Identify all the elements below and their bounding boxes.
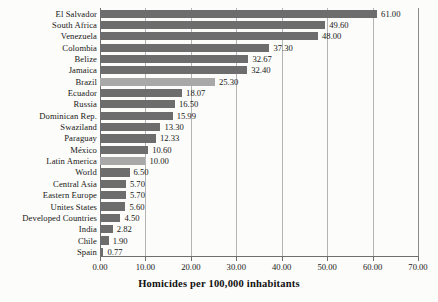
category-label: Russia <box>73 100 97 109</box>
bar-row: Venezuela48.00 <box>0 31 438 42</box>
bar-track: 5.60 <box>100 201 418 212</box>
bar-value-label: 1.90 <box>113 236 128 245</box>
category-label: Eastern Europe <box>43 191 97 200</box>
bar-row: Swaziland13.30 <box>0 121 438 132</box>
bar <box>100 10 377 18</box>
bar-value-label: 15.99 <box>177 111 196 120</box>
category-label: Venezuela <box>61 32 97 41</box>
bar <box>100 32 318 40</box>
x-tick-label-50: 50.00 <box>317 262 336 272</box>
x-tick-10 <box>145 257 146 261</box>
bar <box>100 214 120 222</box>
bar-row: Colombia37.30 <box>0 42 438 53</box>
bar-track: 13.30 <box>100 121 418 132</box>
bar-row: Paraguay12.33 <box>0 133 438 144</box>
category-label: South Africa <box>52 21 97 30</box>
x-tick-20 <box>191 257 192 261</box>
category-label: Latin America <box>46 157 97 166</box>
bar-value-label: 5.70 <box>130 191 145 200</box>
category-label: Central Asia <box>53 179 97 188</box>
x-tick-30 <box>236 257 237 261</box>
x-axis-line <box>100 256 419 257</box>
x-tick-40 <box>282 257 283 261</box>
bar-row: Russia16.50 <box>0 99 438 110</box>
bar-track: 6.50 <box>100 167 418 178</box>
bar <box>100 55 248 63</box>
bar-value-label: 5.60 <box>129 202 144 211</box>
x-tick-label-0: 0.00 <box>92 262 107 272</box>
bar-rows: El Salvador61.00South Africa49.60Venezue… <box>0 8 438 258</box>
bar-row: India2.82 <box>0 224 438 235</box>
bar-track: 37.30 <box>100 42 418 53</box>
category-label: El Salvador <box>56 9 97 18</box>
bar <box>100 44 269 52</box>
bar-value-label: 61.00 <box>381 9 400 18</box>
category-label: Unites States <box>51 202 97 211</box>
bar-value-label: 48.00 <box>322 32 341 41</box>
category-label: India <box>79 225 97 234</box>
category-label: Developed Countries <box>22 213 97 222</box>
bar-track: 61.00 <box>100 8 418 19</box>
bar-row: Jamaica32.40 <box>0 65 438 76</box>
bar-row: Unites States5.60 <box>0 201 438 212</box>
bar-row: Belize32.67 <box>0 53 438 64</box>
bar-track: 49.60 <box>100 19 418 30</box>
bar-value-label: 37.30 <box>273 43 292 52</box>
bar-row: Latin America10.00 <box>0 155 438 166</box>
bar-row: Brazil25.30 <box>0 76 438 87</box>
bar-track: 4.50 <box>100 212 418 223</box>
category-label: Chile <box>78 236 97 245</box>
bar-row: World6.50 <box>0 167 438 178</box>
bar <box>100 89 182 97</box>
category-label: World <box>75 168 97 177</box>
x-tick-label-70: 70.00 <box>408 262 427 272</box>
bar-value-label: 18.07 <box>186 89 205 98</box>
homicide-rate-bar-chart: El Salvador61.00South Africa49.60Venezue… <box>0 0 438 302</box>
bar-track: 18.07 <box>100 87 418 98</box>
x-tick-label-20: 20.00 <box>181 262 200 272</box>
category-label: Belize <box>74 55 97 64</box>
bar-value-label: 13.30 <box>164 123 183 132</box>
x-tick-label-40: 40.00 <box>272 262 291 272</box>
bar <box>100 248 103 256</box>
category-label: Colombia <box>62 43 97 52</box>
bar-row: México10.60 <box>0 144 438 155</box>
bar-value-label: 10.00 <box>149 157 168 166</box>
x-tick-label-30: 30.00 <box>227 262 246 272</box>
category-label: Jamaica <box>69 66 97 75</box>
bar <box>100 202 125 210</box>
bar <box>100 168 130 176</box>
bar-track: 15.99 <box>100 110 418 121</box>
bar <box>100 123 160 131</box>
category-label: Spain <box>77 247 97 256</box>
x-tick-60 <box>373 257 374 261</box>
bar-track: 10.00 <box>100 155 418 166</box>
bar-row: El Salvador61.00 <box>0 8 438 19</box>
bar <box>100 112 173 120</box>
category-label: Paraguay <box>64 134 97 143</box>
bar-value-label: 16.50 <box>179 100 198 109</box>
bar <box>100 78 215 86</box>
bar-value-label: 32.67 <box>252 55 271 64</box>
bar <box>100 157 145 165</box>
bar-value-label: 49.60 <box>329 21 348 30</box>
bar-row: South Africa49.60 <box>0 19 438 30</box>
bar-value-label: 4.50 <box>124 213 139 222</box>
bar <box>100 225 113 233</box>
bar-track: 5.70 <box>100 190 418 201</box>
category-label: Swaziland <box>60 123 97 132</box>
x-tick-label-10: 10.00 <box>136 262 155 272</box>
bar <box>100 191 126 199</box>
bar-row: Dominican Rep.15.99 <box>0 110 438 121</box>
bar-track: 16.50 <box>100 99 418 110</box>
bar <box>100 21 325 29</box>
bar-track: 12.33 <box>100 133 418 144</box>
bar <box>100 146 148 154</box>
category-label: Dominican Rep. <box>39 111 97 120</box>
bar-track: 32.40 <box>100 65 418 76</box>
x-tick-70 <box>418 257 419 261</box>
bar-value-label: 32.40 <box>251 66 270 75</box>
x-tick-label-60: 60.00 <box>363 262 382 272</box>
bar-value-label: 2.82 <box>117 225 132 234</box>
bar-track: 2.82 <box>100 224 418 235</box>
